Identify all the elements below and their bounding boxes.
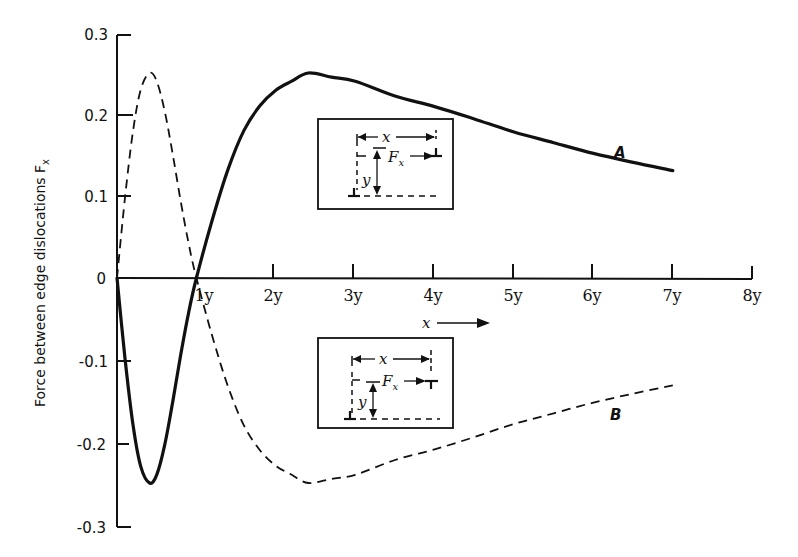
x-axis <box>117 264 752 279</box>
y-tick-label: 0.3 <box>84 26 108 44</box>
y-tick-label: -0.3 <box>77 519 106 537</box>
x-tick-label: 3y <box>343 286 362 305</box>
inset-x-label: x <box>379 350 388 368</box>
inset-same-sign-dislocations: x y Fx <box>318 119 453 209</box>
y-tick-label: 0.2 <box>84 107 108 125</box>
y-tick-labels: 0.3 0.2 0.1 0 -0.1 -0.2 -0.3 <box>77 26 108 537</box>
chart-canvas: 0.3 0.2 0.1 0 -0.1 -0.2 -0.3 1y 2y 3y 4y… <box>0 0 798 557</box>
x-tick-label: 1y <box>194 286 213 305</box>
arrow-right-icon <box>477 318 490 328</box>
inset-y-label: y <box>357 393 367 411</box>
series-b-label: B <box>610 406 621 424</box>
inset-opposite-sign-dislocations: x y Fx <box>318 338 453 428</box>
x-axis-arrow: x <box>422 314 490 332</box>
x-tick-label: 5y <box>503 286 522 305</box>
inset-x-label: x <box>382 128 391 146</box>
x-tick-label: 4y <box>423 286 442 305</box>
y-axis-title: Force between edge dislocations Fx <box>32 159 51 407</box>
x-axis-title: x <box>422 314 431 332</box>
y-axis <box>117 35 133 527</box>
x-tick-label: 8y <box>742 286 761 305</box>
y-tick-label: 0 <box>96 270 106 288</box>
y-tick-label: -0.1 <box>79 353 108 371</box>
x-tick-label: 6y <box>582 286 601 305</box>
series-a-label: A <box>613 144 626 162</box>
x-tick-labels: 1y 2y 3y 4y 5y 6y 7y 8y <box>194 286 761 305</box>
y-tick-label: 0.1 <box>84 188 108 206</box>
y-tick-label: -0.2 <box>77 436 106 454</box>
x-tick-label: 2y <box>263 286 282 305</box>
inset-y-label: y <box>361 171 371 189</box>
x-tick-label: 7y <box>662 286 681 305</box>
